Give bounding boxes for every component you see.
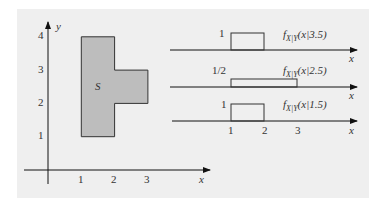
region-s <box>81 37 148 137</box>
left-plot: S y x 1 2 3 1 2 3 4 <box>24 20 210 185</box>
height-label-3-5: 1 <box>219 27 225 39</box>
height-label-1-5: 1 <box>221 98 227 110</box>
axis-label-2-5: x <box>348 89 354 101</box>
pdf-box-3-5 <box>231 33 264 50</box>
conditional-pdf-3-5: 1 fX|Y(x|3.5) x <box>170 27 357 64</box>
x-tick-2: 2 <box>111 173 117 185</box>
x-axis-label: x <box>198 173 204 185</box>
y-tick-3: 3 <box>38 63 44 75</box>
y-tick-4: 4 <box>38 29 44 41</box>
right-x-tick-1: 1 <box>228 124 234 136</box>
right-plots: 1 fX|Y(x|3.5) x 1/2 fX|Y(x|2.5) x 1 fX|Y… <box>170 27 357 136</box>
conditional-pdf-2-5: 1/2 fX|Y(x|2.5) x <box>170 64 357 101</box>
y-tick-2: 2 <box>38 96 44 108</box>
y-tick-1: 1 <box>38 129 44 141</box>
x-tick-3: 3 <box>144 173 150 185</box>
diagram: S y x 1 2 3 1 2 3 4 1 fX|Y(x|3.5) x 1/2 … <box>0 0 385 205</box>
pdf-box-2-5 <box>231 79 297 87</box>
y-axis-label: y <box>55 20 61 32</box>
pdf-label-1-5: fX|Y(x|1.5) <box>283 98 327 113</box>
right-x-tick-3: 3 <box>295 124 301 136</box>
height-label-2-5: 1/2 <box>212 64 226 76</box>
axis-label-1-5: x <box>348 124 354 136</box>
x-tick-1: 1 <box>78 173 84 185</box>
pdf-box-1-5 <box>231 104 264 121</box>
axis-label-3-5: x <box>348 52 354 64</box>
pdf-label-3-5: fX|Y(x|3.5) <box>283 28 327 43</box>
right-x-tick-2: 2 <box>262 124 268 136</box>
region-label: S <box>95 80 101 92</box>
pdf-label-2-5: fX|Y(x|2.5) <box>283 64 327 79</box>
